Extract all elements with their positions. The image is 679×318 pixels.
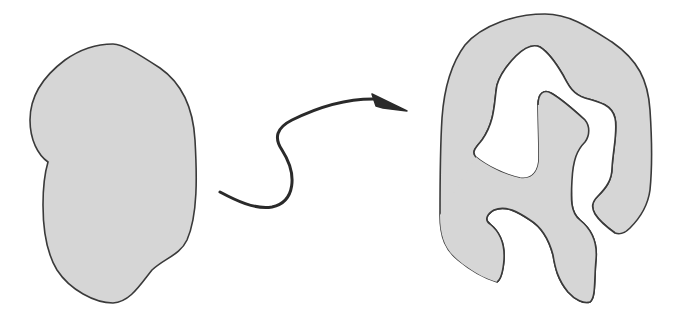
simple-blob-shape xyxy=(30,44,196,303)
diagram-canvas xyxy=(0,0,679,318)
arrowhead-icon xyxy=(372,94,407,111)
transform-arrow xyxy=(220,99,378,208)
